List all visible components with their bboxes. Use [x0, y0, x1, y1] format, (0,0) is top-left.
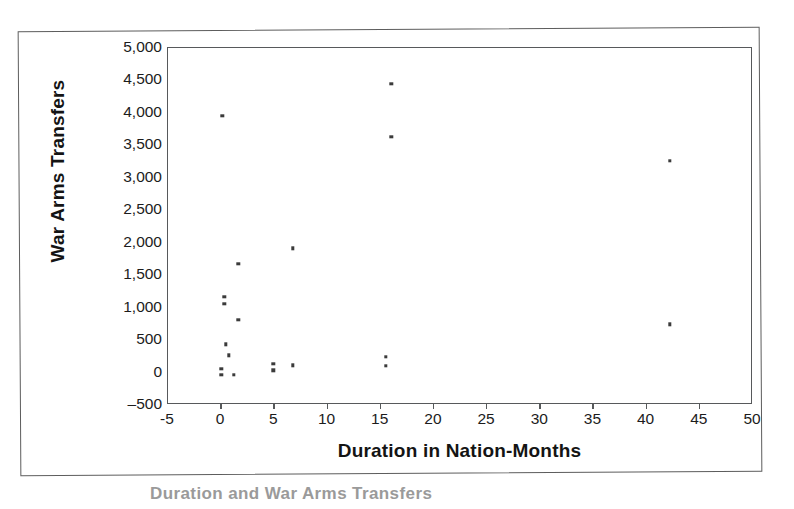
data-point — [291, 364, 294, 367]
x-axis-tick-label: 30 — [531, 410, 548, 428]
y-axis-tick-label: 1,000 — [123, 298, 162, 316]
data-point — [223, 295, 226, 298]
scatter-chart: War Arms Transfers Duration in Nation-Mo… — [0, 0, 794, 509]
y-axis-tick-label: –500 — [128, 395, 162, 413]
x-axis-tick-label: 20 — [424, 410, 441, 428]
data-point — [668, 322, 671, 325]
x-axis-tick-mark — [273, 404, 274, 409]
data-point — [237, 262, 240, 265]
x-axis-tick-mark — [592, 404, 593, 409]
x-axis-tick-mark — [486, 404, 487, 409]
data-point — [390, 82, 393, 85]
x-axis-tick-label: 5 — [269, 410, 278, 428]
x-axis-tick-label: -5 — [160, 410, 174, 428]
data-point — [224, 343, 227, 346]
y-axis-tick-label: 3,000 — [123, 168, 162, 186]
plot-panel — [167, 47, 752, 404]
x-axis-tick-mark — [646, 404, 647, 409]
y-axis-tick-label: 5,000 — [123, 38, 162, 56]
x-axis-tick-mark — [220, 404, 221, 409]
y-axis-tick-label: 500 — [136, 330, 162, 348]
data-point — [390, 135, 393, 138]
data-point — [221, 114, 224, 117]
x-axis-tick-mark — [699, 404, 700, 409]
x-axis-tick-mark — [539, 404, 540, 409]
x-axis-tick-mark — [433, 404, 434, 409]
data-point — [227, 354, 230, 357]
data-point — [291, 247, 294, 250]
y-axis-tick-label: 4,000 — [123, 103, 162, 121]
x-axis-tick-label: 10 — [318, 410, 335, 428]
data-point — [237, 318, 240, 321]
y-axis-tick-label: 3,500 — [123, 135, 162, 153]
x-axis-tick-label: 50 — [743, 410, 760, 428]
data-point — [220, 367, 223, 370]
data-point — [232, 373, 235, 376]
figure-caption: Duration and War Arms Transfers — [150, 484, 670, 504]
data-point — [384, 355, 387, 358]
y-axis-tick-labels: 5,0004,5004,0003,5003,0002,5002,0001,500… — [96, 47, 162, 404]
x-axis-tick-mark — [380, 404, 381, 409]
x-axis-tick-label: 40 — [637, 410, 654, 428]
y-axis-tick-label: 0 — [153, 363, 162, 381]
x-axis-tick-label: 25 — [477, 410, 494, 428]
data-point — [220, 373, 223, 376]
data-point — [272, 369, 275, 372]
y-axis-tick-label: 4,500 — [123, 70, 162, 88]
x-axis-tick-label: 15 — [371, 410, 388, 428]
x-axis-tick-label: 0 — [216, 410, 225, 428]
data-point — [272, 362, 275, 365]
y-axis-tick-label: 2,000 — [123, 233, 162, 251]
x-axis-title: Duration in Nation-Months — [167, 440, 752, 462]
x-axis-tick-label: 35 — [584, 410, 601, 428]
data-point — [668, 159, 671, 162]
x-axis-tick-labels: -505101520253035404550 — [167, 404, 752, 434]
x-axis-tick-label: 45 — [690, 410, 707, 428]
figure-root: War Arms Transfers Duration in Nation-Mo… — [0, 0, 794, 509]
y-axis-title: War Arms Transfers — [47, 41, 69, 301]
y-axis-tick-label: 2,500 — [123, 200, 162, 218]
data-point — [223, 302, 226, 305]
data-point — [384, 364, 387, 367]
x-axis-tick-mark — [327, 404, 328, 409]
y-axis-tick-label: 1,500 — [123, 265, 162, 283]
